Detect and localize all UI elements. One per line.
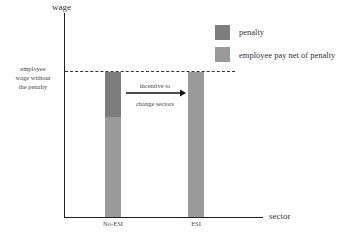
reference-line-label: employee wage without the penalty xyxy=(4,64,62,91)
y-axis xyxy=(64,13,65,218)
x-axis-label: sector xyxy=(269,211,291,221)
annotation-line1: incentive to xyxy=(122,82,188,89)
y-axis-label: wage xyxy=(52,2,71,12)
x-axis xyxy=(64,217,263,218)
bar-no-esi-penalty xyxy=(105,72,121,117)
legend-label-penalty: penalty xyxy=(239,27,264,37)
bar-no-esi-net-pay xyxy=(105,117,121,217)
arrow-right-icon xyxy=(126,89,186,97)
tick-label-no-esi: No-ESI xyxy=(93,220,133,227)
legend-swatch-penalty xyxy=(215,25,230,40)
bar-esi-net-pay xyxy=(188,72,204,217)
legend-label-net-pay: employee pay net of penalty xyxy=(239,50,335,60)
annotation-line2: change sectors xyxy=(122,100,188,107)
reference-wage-line xyxy=(65,71,235,72)
legend-swatch-net-pay xyxy=(215,47,230,62)
tick-label-esi: ESI xyxy=(176,220,216,227)
